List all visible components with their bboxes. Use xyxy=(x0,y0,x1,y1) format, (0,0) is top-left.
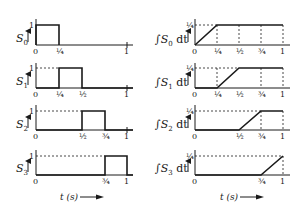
svg-text:1: 1 xyxy=(124,132,129,141)
svg-text:½: ½ xyxy=(236,90,244,99)
svg-text:1: 1 xyxy=(29,64,34,73)
svg-text:¼: ¼ xyxy=(56,47,64,56)
svg-text:1: 1 xyxy=(280,177,285,186)
int-s3-label: ∫S3 dt xyxy=(155,162,188,177)
svg-text:¾: ¾ xyxy=(258,90,266,99)
s2-label: S2 xyxy=(16,118,28,133)
int-s2-label: ∫S2 dt xyxy=(155,118,188,133)
svg-text:¾: ¾ xyxy=(102,132,110,141)
svg-text:¼: ¼ xyxy=(56,90,64,99)
y-tick-1: 1 xyxy=(29,21,34,30)
svg-text:1: 1 xyxy=(280,132,285,141)
svg-text:¼: ¼ xyxy=(186,107,194,116)
svg-text:¼: ¼ xyxy=(214,47,222,56)
svg-text:½: ½ xyxy=(79,132,87,141)
svg-text:t (s): t (s) xyxy=(60,192,79,202)
right-panel-int-s1: ¼ 0 ¼ ½ ¾ 1 ∫S1 dt xyxy=(155,63,290,99)
int-s1-label: ∫S1 dt xyxy=(155,76,188,91)
svg-text:0: 0 xyxy=(33,132,38,141)
svg-text:¾: ¾ xyxy=(102,177,110,186)
svg-text:¼: ¼ xyxy=(214,90,222,99)
svg-text:t (s): t (s) xyxy=(220,192,239,202)
left-panel-s1: 1 0 ¼ ½ 1 S1 xyxy=(16,63,133,99)
svg-text:½: ½ xyxy=(79,90,87,99)
right-time-axis-label: t (s) xyxy=(220,192,264,202)
svg-text:½: ½ xyxy=(236,47,244,56)
svg-text:1: 1 xyxy=(124,47,129,56)
left-panel-s3: 1 0 ¾ 1 S3 xyxy=(16,150,133,186)
svg-text:0: 0 xyxy=(192,90,197,99)
svg-text:1: 1 xyxy=(280,47,285,56)
svg-text:1: 1 xyxy=(124,177,129,186)
svg-text:0: 0 xyxy=(33,90,38,99)
int-s0-label: ∫S0 dt xyxy=(155,33,188,48)
svg-text:¾: ¾ xyxy=(258,177,266,186)
svg-text:0: 0 xyxy=(192,132,197,141)
left-panel-s0: 1 0 ¼ 1 S0 xyxy=(16,19,133,56)
svg-text:1: 1 xyxy=(124,90,129,99)
right-panel-int-s2: ¼ 0 ½ ¾ 1 ∫S2 dt xyxy=(155,105,290,141)
s0-label: S0 xyxy=(16,32,28,47)
walsh-diagram: 1 0 ¼ 1 S0 1 0 ¼ ½ 1 S1 1 0 ½ ¾ 1 S2 xyxy=(0,0,305,214)
arrow-right-icon xyxy=(96,195,104,200)
left-panel-s2: 1 0 ½ ¾ 1 S2 xyxy=(16,105,133,141)
svg-text:0: 0 xyxy=(192,47,197,56)
svg-text:¼: ¼ xyxy=(186,152,194,161)
svg-text:0: 0 xyxy=(33,177,38,186)
s3-label: S3 xyxy=(16,162,28,177)
svg-text:1: 1 xyxy=(29,107,34,116)
svg-text:¼: ¼ xyxy=(186,21,194,30)
svg-text:½: ½ xyxy=(236,132,244,141)
right-panel-int-s3: ¼ 0 ¾ 1 ∫S3 dt xyxy=(155,150,290,186)
svg-text:¾: ¾ xyxy=(258,132,266,141)
svg-text:1: 1 xyxy=(280,90,285,99)
svg-text:¾: ¾ xyxy=(258,47,266,56)
svg-text:0: 0 xyxy=(192,177,197,186)
svg-text:1: 1 xyxy=(29,152,34,161)
left-time-axis-label: t (s) xyxy=(60,192,104,202)
s1-label: S1 xyxy=(16,75,28,90)
arrow-right-icon xyxy=(256,195,264,200)
right-panel-int-s0: ¼ 0 ¼ ½ ¾ 1 ∫S0 dt xyxy=(155,19,290,56)
svg-text:0: 0 xyxy=(33,47,38,56)
svg-text:¼: ¼ xyxy=(186,64,194,73)
